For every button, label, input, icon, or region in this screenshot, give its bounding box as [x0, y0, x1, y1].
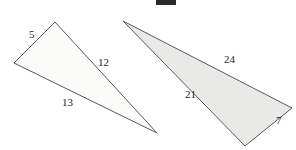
right-triangle-side-label-24: 24 — [224, 53, 236, 65]
geometry-figure: 5 12 13 24 21 7 — [0, 0, 296, 150]
triangles-canvas: 5 12 13 24 21 7 — [0, 0, 296, 150]
right-triangle-side-label-21: 21 — [185, 88, 196, 100]
left-triangle-shape — [14, 22, 157, 133]
right-triangle-side-label-7: 7 — [276, 114, 282, 126]
left-triangle-side-label-12: 12 — [98, 56, 109, 68]
left-triangle-side-label-5: 5 — [29, 28, 35, 40]
left-triangle-side-label-13: 13 — [62, 96, 74, 108]
